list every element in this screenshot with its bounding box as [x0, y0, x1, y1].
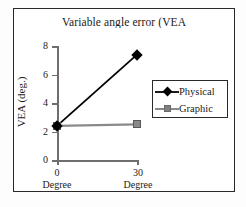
legend-entry-graphic: Graphic	[153, 100, 227, 117]
legend-entry-physical: Physical	[153, 83, 227, 100]
plot-area: 8 6 4 2 0 0 Degree 30 Degree VEA (deg.)	[0, 0, 246, 207]
diamond-marker-icon	[163, 86, 173, 96]
legend-label-physical: Physical	[179, 86, 215, 97]
legend-swatch-graphic	[155, 103, 179, 115]
series-line-graphic	[57, 124, 137, 125]
series-line-physical	[57, 55, 137, 126]
chart-screenshot: Variable angle error (VEA 8 6 4 2 0 0	[0, 0, 246, 207]
legend-label-graphic: Graphic	[179, 103, 213, 114]
data-point-graphic-30	[133, 120, 141, 128]
square-marker-icon	[164, 105, 171, 112]
chart-legend: Physical Graphic	[152, 80, 228, 118]
legend-swatch-physical	[155, 86, 179, 98]
